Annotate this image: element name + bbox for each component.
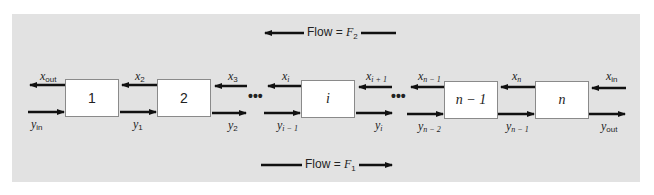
label-x-n: xn (512, 70, 521, 84)
diagram-canvas: Flow = F2 Flow = F1 1 2 i n − 1 n ••• ••… (0, 0, 654, 195)
label-y-1: y1 (133, 118, 143, 132)
label-x-in: xin (606, 70, 618, 84)
label-x-i: xi (282, 70, 290, 84)
stage-box-n-minus-1: n − 1 (444, 81, 498, 119)
label-y-i: yi (375, 119, 383, 133)
stage-box-i: i (301, 80, 355, 118)
flow-f1-label: Flow = F1 (302, 157, 359, 173)
label-x-i-plus-1: xi + 1 (366, 70, 387, 84)
stage-box-1: 1 (65, 79, 119, 117)
label-y-i-minus-1: yi − 1 (277, 119, 298, 133)
ellipsis-2: ••• (391, 88, 406, 104)
flow-f2-label: Flow = F2 (304, 25, 361, 41)
ellipsis-1: ••• (248, 88, 263, 104)
label-x-n-minus-1: xn − 1 (418, 70, 441, 84)
label-x-3: x3 (228, 70, 238, 84)
label-y-out: yout (601, 120, 617, 134)
label-y-in: yin (31, 118, 43, 132)
stage-box-n: n (535, 81, 589, 119)
label-x-out: xout (40, 70, 56, 84)
stage-box-2: 2 (157, 79, 211, 117)
label-x-2: x2 (135, 70, 145, 84)
label-y-n-minus-1: yn − 1 (506, 120, 529, 134)
label-y-2: y2 (228, 119, 238, 133)
label-y-n-minus-2: yn − 2 (418, 120, 441, 134)
